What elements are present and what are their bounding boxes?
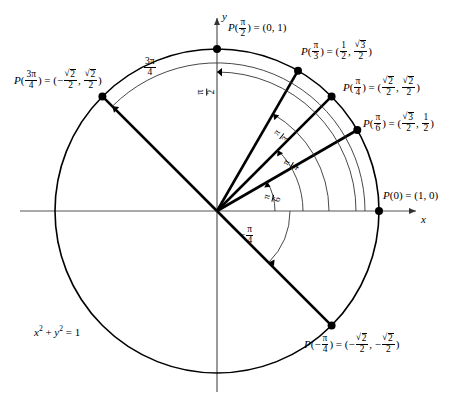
x-axis-label: x [421, 213, 426, 225]
arc-label-neg-pi-4: −π4 [240, 225, 254, 245]
arc-neg-pi-4-path [269, 211, 290, 263]
circle-equation-label: x2 + y2 = 1 [34, 326, 80, 338]
ray-3pi-4 [102, 96, 217, 211]
point-label-p-3pi-4: P(3π4) = (−22, 22) [14, 69, 102, 91]
unit-circle-figure: y x P(π2) = (0, 1) P(π3) = (12, 32) P(π4… [0, 0, 454, 408]
y-axis-arrowhead [214, 18, 220, 25]
point-dot-p-0 [375, 207, 383, 215]
point-label-p-neg-pi-4: P(−π4) = (−22, −22) [304, 333, 399, 355]
point-dot-p-pi-6 [353, 126, 361, 134]
point-label-p-pi-3: P(π3) = (12, 32) [301, 40, 372, 62]
arc-label-3pi-4: 3π4 [143, 57, 157, 77]
ray-neg-pi-4 [217, 211, 332, 326]
point-label-p-pi-6: P(π6) = (32, 12) [363, 112, 434, 134]
point-dot-p-3pi-4 [98, 92, 106, 100]
point-dot-p-pi-2 [213, 45, 221, 53]
point-dot-p-neg-pi-4 [328, 322, 336, 330]
arc-label-pi-2: π2 [196, 88, 216, 97]
arc-pi-2-arrowhead [217, 68, 222, 77]
y-axis-label: y [222, 10, 227, 22]
point-dot-p-pi-4 [328, 92, 336, 100]
point-label-p-pi-4: P(π4) = (22, 22) [343, 76, 420, 98]
point-label-p-pi-2: P(π2) = (0, 1) [228, 18, 286, 38]
arc-pi-4-arrowhead [277, 150, 283, 156]
point-dot-p-pi-3 [294, 67, 302, 75]
x-axis-arrowhead [409, 208, 416, 214]
point-label-p-0: P(0) = (1, 0) [383, 190, 438, 201]
